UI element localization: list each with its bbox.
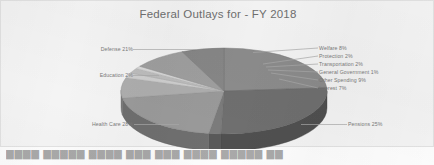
slice-label-education: Education 2%: [71, 73, 133, 78]
pie-chart-svg: [119, 41, 329, 149]
slice-label-protection: Protection 2%: [319, 54, 353, 59]
chart-page: Federal Outlays for - FY 2018: [0, 0, 434, 165]
pie-side-education: [209, 134, 221, 149]
slice-label-pensions: Pensions 25%: [348, 122, 382, 127]
slice-label-general-government: General Government 1%: [319, 70, 378, 75]
chart-title: Federal Outlays for - FY 2018: [1, 8, 434, 20]
slice-label-defense: Defense 21%: [79, 47, 133, 52]
slice-label-health-care: Health Care 28%: [57, 122, 133, 127]
slice-label-other-spending: Other Spending 9%: [319, 78, 366, 83]
bottom-cutoff-text: ████ █████ ████ ███ ███ ████ █████ ██: [6, 150, 283, 158]
pie-chart: [119, 41, 329, 149]
pie-slice-pensions[interactable]: [224, 48, 327, 91]
bottom-cutoff-strip: ████ █████ ████ ███ ███ ████ █████ ██: [0, 150, 434, 165]
chart-card: Federal Outlays for - FY 2018: [0, 0, 434, 147]
slice-label-interest: Interest 7%: [319, 86, 346, 91]
slice-label-welfare: Welfare 8%: [319, 46, 347, 51]
slice-label-transportation: Transportation 2%: [319, 62, 363, 67]
pie-top-faces: [121, 48, 327, 134]
